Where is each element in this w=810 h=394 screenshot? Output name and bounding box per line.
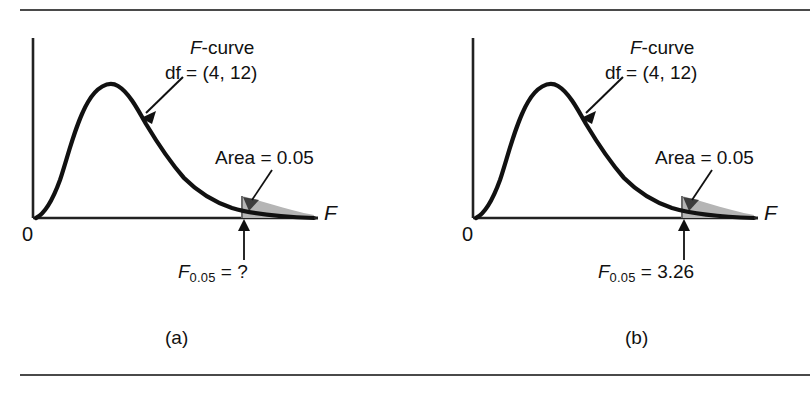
area-leader-line-b	[692, 170, 712, 200]
figure-container: F-curve df = (4, 12) Area = 0.05 F 0 F0.…	[0, 0, 810, 394]
curve-title-italic-a: F	[190, 37, 202, 58]
x-axis-label-a: F	[324, 202, 337, 223]
critical-value-label-a: F0.05 = ?	[178, 262, 248, 285]
panel-caption-a: (a)	[165, 328, 188, 347]
critical-pointer-arrowhead-b	[678, 219, 690, 231]
critical-rest-b: = 3.26	[636, 261, 695, 282]
x-axis-label-b: F	[764, 202, 777, 223]
area-label-a: Area = 0.05	[215, 148, 314, 167]
panel-a: F-curve df = (4, 12) Area = 0.05 F 0 F0.…	[0, 0, 405, 394]
panel-b: F-curve df = (4, 12) Area = 0.05 F 0 F0.…	[455, 0, 810, 394]
area-label-b: Area = 0.05	[655, 148, 754, 167]
curve-title-italic-b: F	[630, 37, 642, 58]
panel-caption-b: (b)	[625, 328, 648, 347]
f-curve-graphic-a	[0, 0, 405, 394]
origin-label-b: 0	[462, 224, 473, 244]
critical-subscript-a: 0.05	[190, 270, 216, 285]
curve-df-label-b: df = (4, 12)	[605, 63, 697, 82]
critical-rest-a: = ?	[216, 261, 248, 282]
critical-pointer-arrowhead-a	[238, 219, 250, 231]
critical-symbol-b: F	[598, 261, 610, 282]
critical-value-label-b: F0.05 = 3.26	[598, 262, 694, 285]
curve-title-rest-b: -curve	[642, 37, 695, 58]
area-leader-line-a	[252, 170, 272, 200]
curve-df-label-a: df = (4, 12)	[165, 63, 257, 82]
curve-title-a: F-curve	[190, 38, 254, 57]
curve-title-rest-a: -curve	[202, 37, 255, 58]
critical-symbol-a: F	[178, 261, 190, 282]
critical-subscript-b: 0.05	[610, 270, 636, 285]
curve-title-b: F-curve	[630, 38, 694, 57]
origin-label-a: 0	[22, 224, 33, 244]
